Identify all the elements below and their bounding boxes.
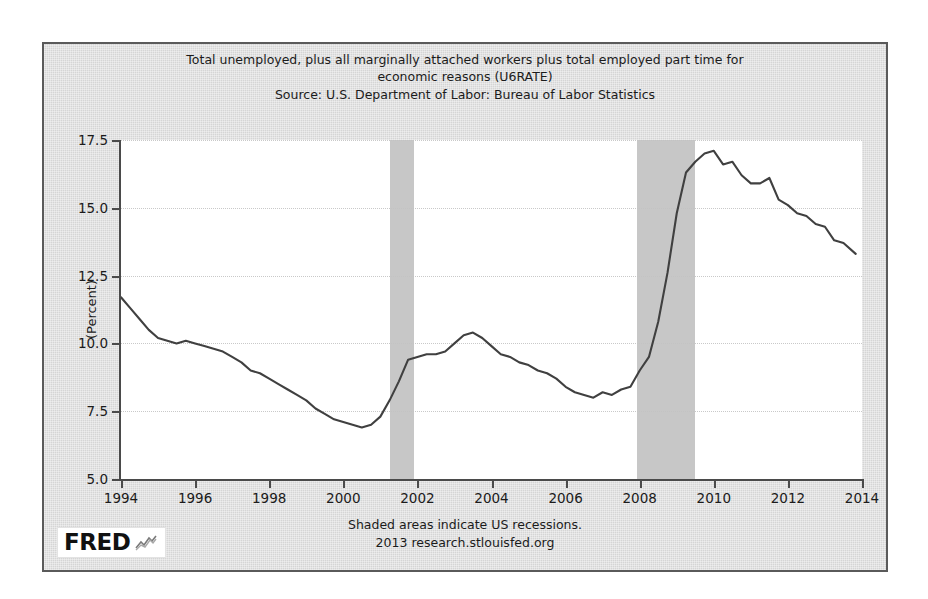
x-tick <box>195 479 197 488</box>
x-tick-label: 2012 <box>771 490 805 506</box>
x-tick-label: 2000 <box>326 490 360 506</box>
recession-note: Shaded areas indicate US recessions. <box>44 516 886 534</box>
x-tick-label: 1994 <box>104 490 138 506</box>
x-tick <box>343 479 345 488</box>
fred-wordmark: FRED <box>64 531 130 554</box>
x-tick <box>121 479 123 488</box>
fred-chart-glyph <box>135 535 157 551</box>
plot-area: 17.515.012.510.07.55.0 19941996199820002… <box>119 140 862 481</box>
x-tick-label: 2014 <box>845 490 879 506</box>
x-tick <box>640 479 642 488</box>
y-axis-title-text: (Percent) <box>84 280 99 339</box>
x-tick-label: 2010 <box>697 490 731 506</box>
x-tick <box>269 479 271 488</box>
fred-logo: FRED <box>57 527 166 558</box>
x-tick <box>788 479 790 488</box>
chart-title-line-1: Total unemployed, plus all marginally at… <box>44 52 886 69</box>
y-tick <box>112 479 121 481</box>
chart-footer: Shaded areas indicate US recessions. 201… <box>44 516 886 552</box>
x-tick-label: 2002 <box>400 490 434 506</box>
chart-source-line: Source: U.S. Department of Labor: Bureau… <box>44 86 886 104</box>
x-tick-label: 2008 <box>623 490 657 506</box>
series-u6rate <box>121 140 862 479</box>
chart-title-line-2: economic reasons (U6RATE) <box>44 69 886 86</box>
x-tick <box>566 479 568 488</box>
x-tick <box>862 479 864 488</box>
source-url-note: 2013 research.stlouisfed.org <box>44 534 886 552</box>
x-tick-label: 2004 <box>474 490 508 506</box>
x-tick-label: 1996 <box>178 490 212 506</box>
fred-chart-figure: Total unemployed, plus all marginally at… <box>42 42 888 572</box>
chart-title-block: Total unemployed, plus all marginally at… <box>44 52 886 104</box>
x-tick <box>714 479 716 488</box>
y-axis-title: (Percent) <box>62 140 121 479</box>
x-tick <box>417 479 419 488</box>
x-tick-label: 2006 <box>548 490 582 506</box>
x-tick <box>492 479 494 488</box>
x-tick-label: 1998 <box>252 490 286 506</box>
